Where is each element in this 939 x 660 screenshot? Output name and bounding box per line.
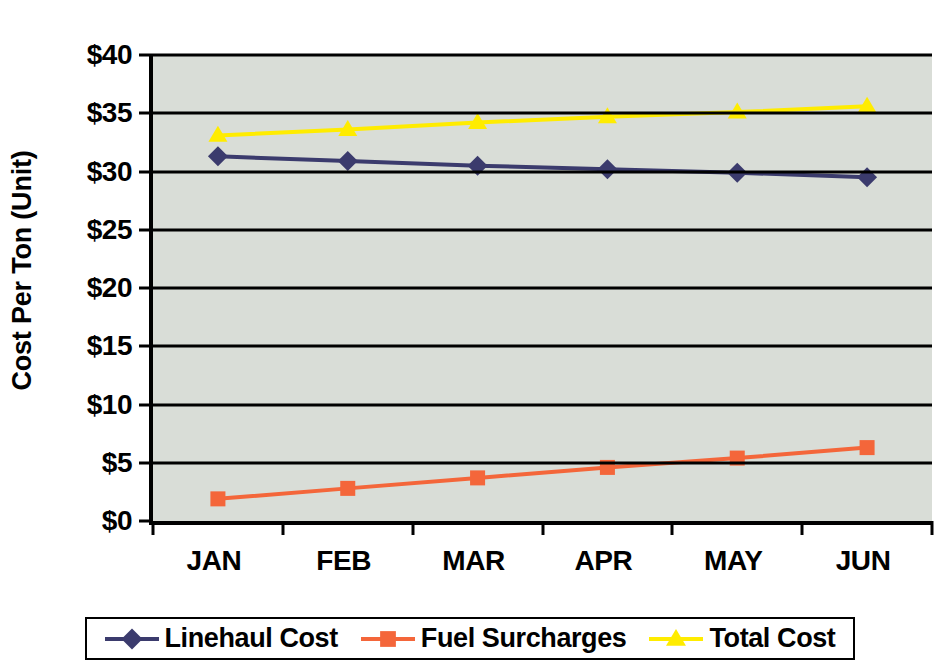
x-axis-tick-label: JUN xyxy=(836,545,891,577)
y-axis-tick-mark xyxy=(139,112,153,115)
series-linehaul-cost xyxy=(208,146,877,187)
legend-item[interactable]: Linehaul Cost xyxy=(105,623,338,654)
plot-area xyxy=(149,55,932,525)
y-axis-tick-label: $15 xyxy=(87,330,132,362)
gridline xyxy=(153,287,932,290)
data-point-marker xyxy=(338,151,358,171)
plot-inner xyxy=(153,55,932,521)
y-axis-tick-mark xyxy=(139,403,153,406)
x-axis-tick-label: APR xyxy=(574,545,632,577)
y-axis-tick-mark xyxy=(139,287,153,290)
gridline xyxy=(153,170,932,173)
legend-item[interactable]: Total Cost xyxy=(649,623,835,654)
legend-item-label: Fuel Surcharges xyxy=(421,623,627,654)
y-axis-tick-mark xyxy=(139,170,153,173)
chart-legend: Linehaul CostFuel SurchargesTotal Cost xyxy=(85,617,855,660)
x-axis-tick-mark xyxy=(281,521,284,535)
legend-item[interactable]: Fuel Surcharges xyxy=(361,623,627,654)
x-axis-tick-mark xyxy=(411,521,414,535)
x-axis-tick-mark xyxy=(931,521,934,535)
y-axis-tick-mark xyxy=(139,228,153,231)
series-line xyxy=(218,156,867,177)
y-axis-tick-label: $25 xyxy=(87,214,132,246)
y-axis-tick-label: $5 xyxy=(102,447,132,479)
y-axis-tick-labels: $40$35$30$25$20$15$10$5$0 xyxy=(44,0,140,560)
line-chart: Cost Per Ton (Unit) $40$35$30$25$20$15$1… xyxy=(0,0,939,660)
x-axis-tick-labels: JANFEBMARAPRMAYJUN xyxy=(149,545,928,585)
x-axis-tick-label: JAN xyxy=(186,545,241,577)
x-axis-tick-mark xyxy=(801,521,804,535)
x-axis-tick-mark xyxy=(152,521,155,535)
x-axis-tick-label: FEB xyxy=(316,545,371,577)
y-axis-tick-mark xyxy=(139,345,153,348)
y-axis-tick-mark xyxy=(139,461,153,464)
gridline xyxy=(153,461,932,464)
y-axis-tick-label: $0 xyxy=(102,505,132,537)
data-point-marker xyxy=(470,470,485,485)
y-axis-tick-label: $40 xyxy=(87,39,132,71)
y-axis-tick-label: $35 xyxy=(87,97,132,129)
legend-item-label: Total Cost xyxy=(709,623,835,654)
data-point-marker xyxy=(860,440,875,455)
legend-item-label: Linehaul Cost xyxy=(165,623,338,654)
x-axis-tick-label: MAR xyxy=(442,545,505,577)
data-point-marker xyxy=(208,146,228,166)
legend-marker-triangle-icon xyxy=(649,627,703,651)
data-point-marker xyxy=(210,491,225,506)
series-fuel-surcharges xyxy=(210,440,874,506)
gridline xyxy=(153,403,932,406)
y-axis-tick-label: $30 xyxy=(87,156,132,188)
series-line xyxy=(218,448,867,499)
y-axis-tick-label: $10 xyxy=(87,389,132,421)
y-axis-tick-mark xyxy=(139,54,153,57)
y-axis-title: Cost Per Ton (Unit) xyxy=(0,0,44,540)
series-line xyxy=(218,106,867,135)
y-axis-title-label: Cost Per Ton (Unit) xyxy=(7,150,38,390)
gridline xyxy=(153,112,932,115)
data-point-marker xyxy=(340,481,355,496)
x-axis-tick-mark xyxy=(541,521,544,535)
x-axis-tick-mark xyxy=(671,521,674,535)
x-axis-tick-label: MAY xyxy=(704,545,762,577)
plot-top-border xyxy=(153,54,932,57)
legend-marker-square-icon xyxy=(361,627,415,651)
series-total-cost xyxy=(208,97,876,142)
legend-marker-diamond-icon xyxy=(105,627,159,651)
y-axis-tick-label: $20 xyxy=(87,272,132,304)
gridline xyxy=(153,228,932,231)
gridline xyxy=(153,345,932,348)
